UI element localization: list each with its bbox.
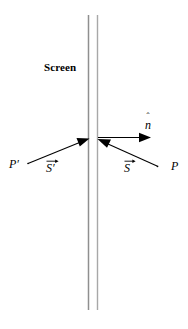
endpoint-dot-p-prime xyxy=(27,163,29,165)
vector-label-n-hat-text: n xyxy=(145,119,151,131)
canvas-background xyxy=(0,0,188,329)
point-label-p: P xyxy=(171,160,178,172)
vector-label-s-text: S xyxy=(124,162,136,174)
vector-arrow-overbar-s xyxy=(124,158,136,163)
endpoint-dot-p xyxy=(157,165,159,167)
vector-label-s-prime: S′ xyxy=(46,158,59,174)
vector-label-s-prime-text: S′ xyxy=(46,162,59,174)
physics-diagram-figure: Screen P′ P S′ S ˆ n xyxy=(0,0,188,329)
screen-label: Screen xyxy=(44,62,76,73)
vector-label-s: S xyxy=(124,158,136,174)
vector-arrow-overbar-s-prime xyxy=(46,158,59,163)
prime-glyph: ′ xyxy=(52,161,55,175)
diagram-canvas xyxy=(0,0,188,329)
point-label-p-prime: P′ xyxy=(9,158,19,170)
vector-label-n-hat: ˆ n xyxy=(145,114,151,131)
